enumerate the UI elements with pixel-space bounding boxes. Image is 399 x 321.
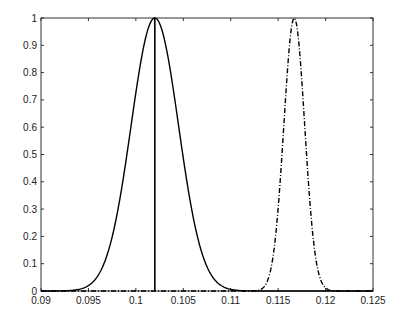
x-tick-label: 0.095 xyxy=(76,295,101,306)
y-tick-label: 0.6 xyxy=(23,122,37,133)
plot-frame xyxy=(41,18,373,291)
x-tick-label: 0.11 xyxy=(221,295,240,306)
y-tick-label: 1 xyxy=(31,13,37,24)
x-tick-label: 0.12 xyxy=(316,295,336,306)
y-tick-label: 0.7 xyxy=(23,94,37,105)
y-tick-label: 0.4 xyxy=(23,176,37,187)
x-tick-label: 0.105 xyxy=(171,295,196,306)
x-tick-label: 0.115 xyxy=(266,295,291,306)
x-tick-label: 0.09 xyxy=(31,295,51,306)
y-tick-label: 0.3 xyxy=(23,204,37,215)
y-tick-label: 0.5 xyxy=(23,149,37,160)
y-tick-label: 0 xyxy=(31,286,37,297)
y-tick-label: 0.2 xyxy=(23,231,37,242)
y-tick-label: 0.8 xyxy=(23,67,37,78)
x-tick-label: 0.1 xyxy=(129,295,143,306)
y-tick-label: 0.9 xyxy=(23,40,37,51)
x-tick-label: 0.125 xyxy=(360,295,385,306)
gaussian-chart: 0.090.0950.10.1050.110.1150.120.125 00.1… xyxy=(0,0,399,321)
y-tick-label: 0.1 xyxy=(23,258,37,269)
